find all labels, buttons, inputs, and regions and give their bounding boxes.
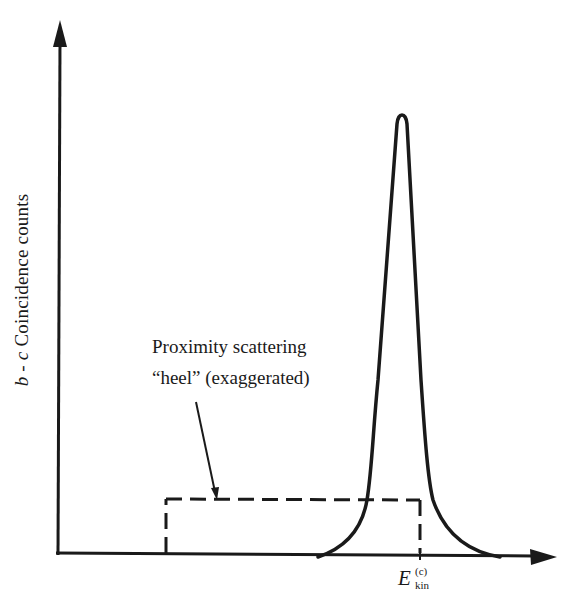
x-tick-superscript: (c) — [415, 565, 427, 577]
x-axis-arrow-icon — [530, 549, 557, 565]
heel-annotation: Proximity scattering “heel” (exaggerated… — [152, 331, 310, 393]
coincidence-peak-curve — [318, 115, 500, 557]
y-axis-label: b - c Coincidence counts — [11, 194, 33, 387]
y-axis-label-prefix: b - c — [11, 352, 32, 387]
x-tick-subscript: kin — [415, 579, 429, 591]
diagram-figure: b - c Coincidence counts Proximity scatt… — [0, 0, 567, 595]
annotation-line-1: Proximity scattering — [152, 331, 310, 362]
x-tick-symbol: E — [398, 566, 411, 590]
diagram-canvas — [0, 0, 567, 595]
y-axis — [53, 20, 67, 555]
x-tick-label-ekin: E(c)kin — [398, 566, 411, 591]
annotation-line-2: “heel” (exaggerated) — [152, 362, 310, 393]
y-axis-arrow-icon — [53, 20, 67, 47]
heel-plateau — [166, 499, 420, 553]
y-axis-label-main: Coincidence counts — [11, 194, 32, 352]
annotation-pointer — [196, 402, 219, 500]
